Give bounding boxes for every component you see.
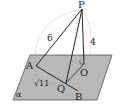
length-pa: 6 [47,33,53,43]
label-p: P [78,0,85,10]
label-a: A [25,60,34,71]
length-po: 4 [90,37,96,47]
geometry-diagram: P A O Q B α 6 4 √11 [0,0,121,105]
label-b: B [75,91,82,102]
label-q: Q [57,83,65,94]
label-alpha: α [16,90,22,99]
label-o: O [80,67,88,78]
length-aq: √11 [34,79,49,88]
